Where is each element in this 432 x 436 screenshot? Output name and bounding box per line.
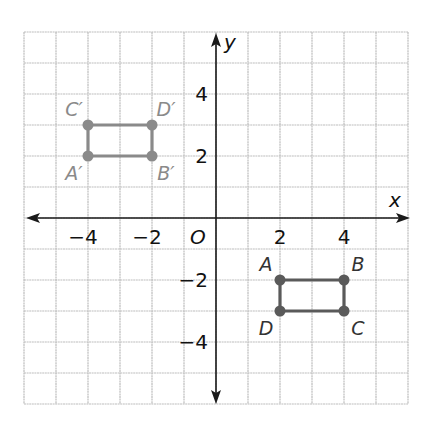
vertex-label: B′ — [157, 162, 175, 184]
vertex-label: D′ — [157, 98, 177, 120]
origin-label: O — [190, 225, 206, 249]
coordinate-plane: xyO−4−22442−2−4ABCDA′B′D′C′ — [0, 0, 432, 436]
vertex-point — [339, 306, 350, 317]
vertex-point — [147, 151, 158, 162]
x-tick-label: −4 — [68, 225, 97, 249]
vertex-point — [275, 275, 286, 286]
vertex-point — [339, 275, 350, 286]
x-tick-label: 4 — [338, 225, 351, 249]
labels: xyO−4−22442−2−4ABCDA′B′D′C′ — [63, 30, 401, 354]
vertex-point — [83, 151, 94, 162]
vertex-label: A′ — [63, 162, 83, 184]
x-tick-label: −2 — [132, 225, 161, 249]
x-tick-label: 2 — [274, 225, 287, 249]
y-tick-label: −4 — [179, 330, 208, 354]
vertex-point — [275, 306, 286, 317]
vertex-label: D — [259, 317, 274, 339]
vertex-label: C — [351, 317, 365, 339]
vertex-point — [83, 120, 94, 131]
vertex-point — [147, 120, 158, 131]
vertex-label: A — [258, 253, 273, 275]
x-axis-label: x — [388, 188, 401, 212]
vertex-label: B — [351, 253, 364, 275]
axes — [26, 33, 410, 404]
vertex-label: C′ — [65, 98, 83, 120]
y-axis-label: y — [223, 30, 237, 54]
y-tick-label: 2 — [195, 144, 208, 168]
y-tick-label: −2 — [179, 268, 208, 292]
y-tick-label: 4 — [195, 82, 208, 106]
